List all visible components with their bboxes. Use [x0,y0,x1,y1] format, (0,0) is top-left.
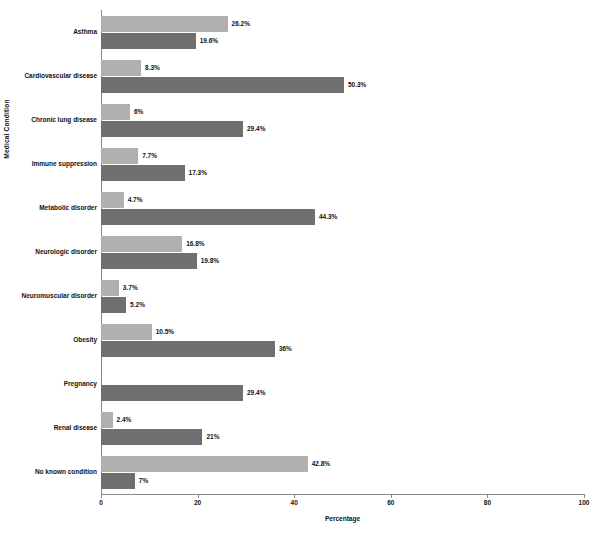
bar-value-label: 3.7% [123,280,138,296]
plot-area: Asthma26.2%19.6%Cardiovascular disease8.… [101,10,584,494]
x-axis-tick-label: 80 [484,499,491,506]
category-label: Pregnancy [1,380,97,387]
category-group: Chronic lung disease6%29.4% [101,104,584,137]
bar-series-light[interactable]: 42.8% [101,456,308,472]
bar-series-light[interactable]: 3.7% [101,280,119,296]
bar-series-dark[interactable]: 21% [101,429,202,445]
x-axis-title: Percentage [101,515,584,522]
bar-value-label: 7.7% [142,148,157,164]
bar-series-dark[interactable]: 29.4% [101,121,243,137]
x-axis-tick [101,494,102,498]
category-group: Asthma26.2%19.6% [101,16,584,49]
bar-series-dark[interactable]: 5.2% [101,297,126,313]
category-label: Metabolic disorder [1,204,97,211]
category-label: Cardiovascular disease [1,72,97,79]
bar-series-light[interactable]: 4.7% [101,192,124,208]
bar-series-dark[interactable]: 17.3% [101,165,185,181]
x-axis-tick-label: 40 [291,499,298,506]
category-group: Pregnancy29.4% [101,368,584,401]
bar-value-label: 50.3% [348,77,366,93]
bar-series-dark[interactable]: 50.3% [101,77,344,93]
bar-series-dark[interactable]: 44.3% [101,209,315,225]
bar-value-label: 29.4% [247,121,265,137]
bar-value-label: 29.4% [247,385,265,401]
bar-value-label: 7% [139,473,148,489]
bar-value-label: 2.4% [117,412,132,428]
bar-value-label: 36% [279,341,292,357]
x-axis-line [101,494,585,495]
bar-chart: Medical Condition Asthma26.2%19.6%Cardio… [0,0,601,536]
bar-value-label: 8.3% [145,60,160,76]
y-axis-title: Medical Condition [0,64,14,194]
bar-series-light[interactable]: 8.3% [101,60,141,76]
bar-value-label: 42.8% [312,456,330,472]
x-axis-tick-label: 20 [194,499,201,506]
x-axis-tick [294,494,295,498]
category-label: Asthma [1,28,97,35]
category-label: Chronic lung disease [1,116,97,123]
category-group: Neurologic disorder16.8%19.8% [101,236,584,269]
category-group: Renal disease2.4%21% [101,412,584,445]
x-axis-tick-label: 0 [99,499,103,506]
bar-series-light[interactable]: 2.4% [101,412,113,428]
bar-value-label: 26.2% [232,16,250,32]
bar-value-label: 44.3% [319,209,337,225]
bar-value-label: 19.6% [200,33,218,49]
category-group: Neuromuscular disorder3.7%5.2% [101,280,584,313]
bar-value-label: 19.8% [201,253,219,269]
bar-series-dark[interactable]: 19.8% [101,253,197,269]
category-group: No known condition42.8%7% [101,456,584,489]
bar-value-label: 5.2% [130,297,145,313]
x-axis-tick [198,494,199,498]
bar-series-dark[interactable]: 29.4% [101,385,243,401]
bar-series-dark[interactable]: 19.6% [101,33,196,49]
bar-series-light[interactable]: 7.7% [101,148,138,164]
x-axis-tick [391,494,392,498]
bar-value-label: 21% [206,429,219,445]
bar-series-light[interactable]: 6% [101,104,130,120]
x-axis-tick-label: 100 [579,499,590,506]
category-group: Immune suppression7.7%17.3% [101,148,584,181]
bar-value-label: 17.3% [189,165,207,181]
bar-value-label: 4.7% [128,192,143,208]
bar-series-light[interactable]: 16.8% [101,236,182,252]
bar-value-label: 10.5% [156,324,174,340]
bar-value-label: 6% [134,104,143,120]
category-group: Cardiovascular disease8.3%50.3% [101,60,584,93]
x-axis-tick [584,494,585,498]
x-axis-tick-label: 60 [387,499,394,506]
bar-series-light[interactable]: 10.5% [101,324,152,340]
category-label: No known condition [1,468,97,475]
bar-series-light[interactable]: 26.2% [101,16,228,32]
category-label: Renal disease [1,424,97,431]
category-label: Obesity [1,336,97,343]
category-label: Neurologic disorder [1,248,97,255]
x-axis-tick [487,494,488,498]
category-group: Metabolic disorder4.7%44.3% [101,192,584,225]
bar-series-dark[interactable]: 7% [101,473,135,489]
category-group: Obesity10.5%36% [101,324,584,357]
bar-series-dark[interactable]: 36% [101,341,275,357]
bar-value-label: 16.8% [186,236,204,252]
category-label: Immune suppression [1,160,97,167]
category-label: Neuromuscular disorder [1,292,97,299]
